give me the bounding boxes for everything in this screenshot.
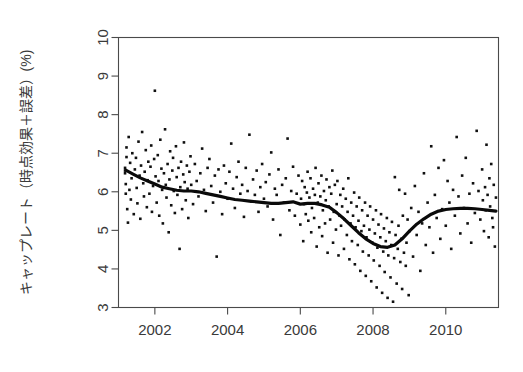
data-point [459, 232, 462, 235]
data-point [402, 214, 405, 217]
data-point [406, 218, 409, 221]
data-point [130, 198, 133, 201]
data-point [426, 201, 429, 204]
data-point [146, 206, 149, 209]
data-point [466, 222, 469, 225]
data-point [167, 231, 170, 234]
data-point [286, 137, 289, 140]
data-point [301, 180, 304, 183]
data-point [319, 195, 322, 198]
data-point [288, 209, 291, 212]
data-point [387, 254, 390, 257]
data-point [147, 160, 150, 163]
data-point [439, 238, 442, 241]
data-point [353, 191, 356, 194]
data-point [358, 196, 361, 199]
data-point [430, 145, 433, 148]
data-point [335, 203, 338, 206]
data-point [219, 190, 222, 193]
data-point [140, 164, 143, 167]
data-point [368, 228, 371, 231]
data-point [135, 187, 138, 190]
data-point [124, 172, 127, 175]
data-point [214, 174, 217, 177]
data-point [492, 184, 495, 187]
data-point [300, 197, 303, 200]
data-point [334, 184, 337, 187]
data-point [143, 170, 146, 173]
data-point [396, 248, 399, 251]
data-point [346, 211, 349, 214]
data-point [192, 203, 195, 206]
y-axis-tick-label: 8 [94, 110, 111, 118]
data-point [277, 168, 280, 171]
data-point [339, 194, 342, 197]
data-point [367, 254, 370, 257]
data-point [162, 222, 165, 225]
data-point [190, 184, 193, 187]
x-axis-tick-label: 2008 [356, 321, 389, 338]
data-point [163, 172, 166, 175]
data-point [432, 251, 435, 254]
data-point [369, 205, 372, 208]
data-point [308, 196, 311, 199]
data-point [386, 217, 389, 220]
data-point [344, 197, 347, 200]
data-point [326, 251, 329, 254]
data-point [295, 192, 298, 195]
data-point [127, 221, 130, 224]
data-point [404, 265, 407, 268]
data-point [303, 186, 306, 189]
data-point [347, 177, 350, 180]
data-point [137, 140, 140, 143]
data-point [268, 173, 271, 176]
data-point [405, 241, 408, 244]
data-point [150, 144, 153, 147]
data-point [297, 174, 300, 177]
data-point [423, 172, 426, 175]
x-axis-tick-label: 2006 [284, 321, 317, 338]
data-point [392, 300, 395, 303]
data-point [393, 257, 396, 260]
data-point [380, 213, 383, 216]
data-point [197, 195, 200, 198]
data-point [237, 160, 240, 163]
data-point [370, 280, 373, 283]
data-point [279, 234, 282, 237]
data-point [332, 241, 335, 244]
data-point [139, 217, 142, 220]
data-point [299, 223, 302, 226]
data-point [217, 168, 220, 171]
data-point [386, 297, 389, 300]
data-point [336, 180, 339, 183]
data-point [127, 136, 130, 139]
data-point [454, 214, 457, 217]
data-point [177, 167, 180, 170]
data-point [341, 205, 344, 208]
data-point [246, 190, 249, 193]
data-point [136, 202, 139, 205]
data-point [343, 248, 346, 251]
data-point [487, 236, 490, 239]
data-point [415, 234, 418, 237]
data-point [204, 210, 207, 213]
data-point [252, 178, 255, 181]
data-point [187, 217, 190, 220]
data-point [346, 234, 349, 237]
data-point [352, 214, 355, 217]
data-point [444, 224, 447, 227]
data-point [381, 292, 384, 295]
data-point [194, 163, 197, 166]
data-point [324, 222, 327, 225]
data-point [180, 160, 183, 163]
data-point [184, 199, 187, 202]
data-point [124, 183, 127, 186]
data-point [124, 192, 127, 195]
data-point [228, 170, 231, 173]
data-point [457, 195, 460, 198]
data-point [464, 157, 467, 160]
data-point [435, 217, 438, 220]
data-point [488, 177, 491, 180]
data-point [306, 191, 309, 194]
y-axis-tick-label: 3 [94, 303, 111, 311]
